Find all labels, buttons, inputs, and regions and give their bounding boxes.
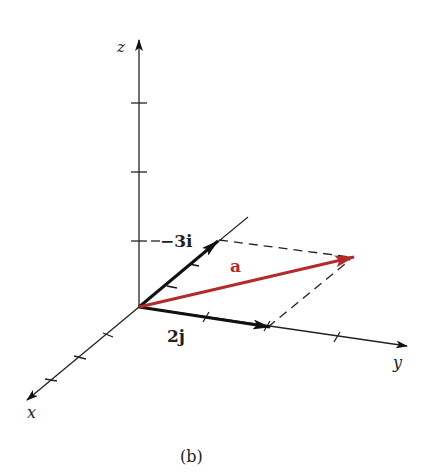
- vector-a-label: a: [230, 256, 241, 276]
- 2j-label: 2j: [167, 326, 185, 346]
- 2j-vector: [139, 307, 270, 327]
- z-axis: [131, 40, 147, 307]
- vector-diagram: z x y −3i 2j a (b): [0, 0, 431, 472]
- x-axis-label: x: [27, 403, 36, 422]
- figure-caption: (b): [180, 447, 203, 466]
- z-axis-label: z: [116, 38, 125, 56]
- neg-3i-label: −3i: [160, 231, 193, 251]
- y-axis-label: y: [392, 353, 403, 372]
